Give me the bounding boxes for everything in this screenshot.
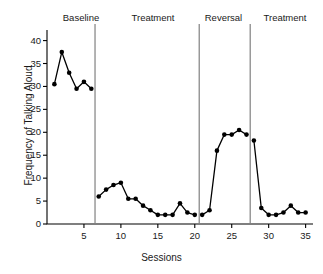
data-point-marker <box>252 138 257 143</box>
data-point-marker <box>281 210 286 215</box>
data-point-marker <box>133 196 138 201</box>
data-point-marker <box>215 148 220 153</box>
data-point-marker <box>119 180 124 185</box>
y-tick-label: 0 <box>3 219 41 229</box>
chart-figure: Baseline Treatment Reversal Treatment 05… <box>0 0 323 274</box>
data-point-marker <box>170 213 175 218</box>
data-point-marker <box>52 82 57 87</box>
data-point-marker <box>266 213 271 218</box>
y-tick-label: 40 <box>3 36 41 46</box>
data-point-marker <box>111 183 116 188</box>
x-tick-label: 25 <box>217 231 247 241</box>
x-tick-label: 20 <box>180 231 210 241</box>
data-point-marker <box>178 201 183 206</box>
data-line-segment <box>99 183 195 215</box>
data-point-marker <box>207 208 212 213</box>
data-point-marker <box>185 210 190 215</box>
x-tick-label: 35 <box>291 231 321 241</box>
data-point-marker <box>163 213 168 218</box>
data-line-segment <box>54 52 91 89</box>
data-point-marker <box>237 128 242 133</box>
data-point-marker <box>200 213 205 218</box>
data-point-marker <box>229 132 234 137</box>
data-line-segment <box>254 141 306 215</box>
data-point-marker <box>89 86 94 91</box>
data-point-marker <box>96 194 101 199</box>
data-point-marker <box>259 206 264 211</box>
data-point-marker <box>303 210 308 215</box>
data-point-marker <box>156 213 161 218</box>
data-point-marker <box>59 50 64 55</box>
data-point-marker <box>148 208 153 213</box>
data-point-marker <box>244 132 249 137</box>
data-line-segment <box>202 130 246 215</box>
x-tick-label: 5 <box>69 231 99 241</box>
data-point-marker <box>289 203 294 208</box>
axis-spines <box>47 30 313 224</box>
y-axis-label: Frequency of Talking Aloud <box>23 46 34 206</box>
data-point-marker <box>74 86 79 91</box>
x-axis-label: Sessions <box>0 252 323 263</box>
x-tick-label: 30 <box>254 231 284 241</box>
data-point-marker <box>67 70 72 75</box>
data-point-marker <box>296 210 301 215</box>
data-point-marker <box>82 80 87 85</box>
data-point-marker <box>192 213 197 218</box>
data-point-marker <box>222 132 227 137</box>
x-tick-label: 10 <box>106 231 136 241</box>
data-point-marker <box>274 213 279 218</box>
x-tick-label: 15 <box>143 231 173 241</box>
data-point-marker <box>126 196 131 201</box>
data-point-marker <box>141 203 146 208</box>
data-point-marker <box>104 187 109 192</box>
